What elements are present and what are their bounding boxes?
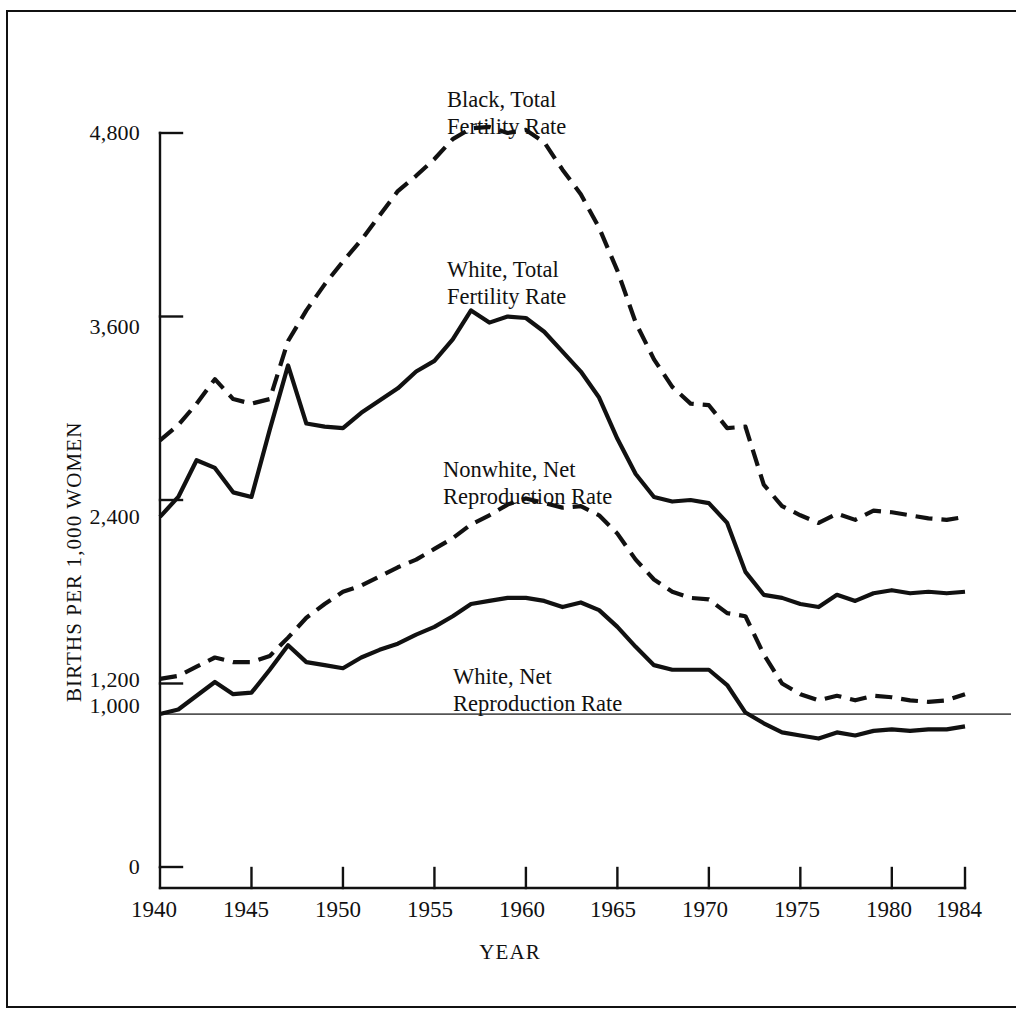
x-tick-label-1955: 1955 (407, 897, 453, 923)
y-tick-label-4800: 4,800 (0, 120, 140, 146)
series-label-white-net-reproduction-rate: White, Net Reproduction Rate (453, 663, 622, 718)
y-axis (160, 133, 182, 867)
y-tick-label-0: 0 (0, 854, 140, 880)
x-tick-label-1960: 1960 (499, 897, 545, 923)
series-label-black-total-fertility-rate: Black, Total Fertility Rate (447, 86, 566, 141)
y-tick-label-3600: 3,600 (0, 314, 140, 340)
series-label-nonwhite-net-reproduction-rate: Nonwhite, Net Reproduction Rate (443, 456, 612, 511)
y-axis-title: BIRTHS PER 1,000 WOMEN (62, 422, 87, 702)
x-tick-label-1945: 1945 (223, 897, 269, 923)
series-label-white-total-fertility-rate: White, Total Fertility Rate (447, 256, 566, 311)
x-tick-label-1984: 1984 (936, 897, 982, 923)
x-tick-label-1965: 1965 (590, 897, 636, 923)
x-tick-label-1970: 1970 (682, 897, 728, 923)
x-tick-label-1980: 1980 (866, 897, 912, 923)
x-tick-label-1940: 1940 (131, 897, 177, 923)
x-axis-title: YEAR (479, 940, 541, 965)
x-axis (160, 868, 965, 888)
x-tick-label-1950: 1950 (315, 897, 361, 923)
x-tick-label-1975: 1975 (774, 897, 820, 923)
